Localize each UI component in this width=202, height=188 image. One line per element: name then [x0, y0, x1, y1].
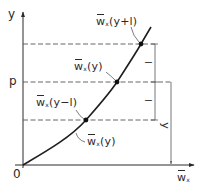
- leader-upper: [131, 27, 139, 42]
- p-level-label: p: [9, 75, 17, 87]
- point-upper: [139, 42, 144, 47]
- label-upper-point: wx(y+l): [96, 16, 137, 27]
- leader-middle: [106, 72, 115, 80]
- diagram-graphics: [0, 0, 202, 188]
- label-lower-point: wx(y−l): [36, 97, 77, 108]
- label-middle-point: wx(y): [74, 61, 103, 72]
- dimension-y-label: y: [160, 122, 171, 129]
- point-middle: [115, 80, 120, 85]
- dimension-l-upper-label: l: [143, 61, 152, 64]
- dimension-l-lower-label: l: [143, 99, 152, 102]
- leader-lower: [76, 110, 84, 119]
- origin-label: 0: [13, 168, 21, 180]
- label-curve: wx(y): [87, 136, 116, 147]
- y-axis-label: y: [8, 8, 15, 20]
- leader-curve: [76, 133, 85, 142]
- diagram: y p 0 wx wx(y+l) wx(y) wx(y−l) wx(y) l l…: [0, 0, 202, 188]
- x-axis-label: wx: [177, 172, 190, 183]
- point-lower: [84, 118, 89, 123]
